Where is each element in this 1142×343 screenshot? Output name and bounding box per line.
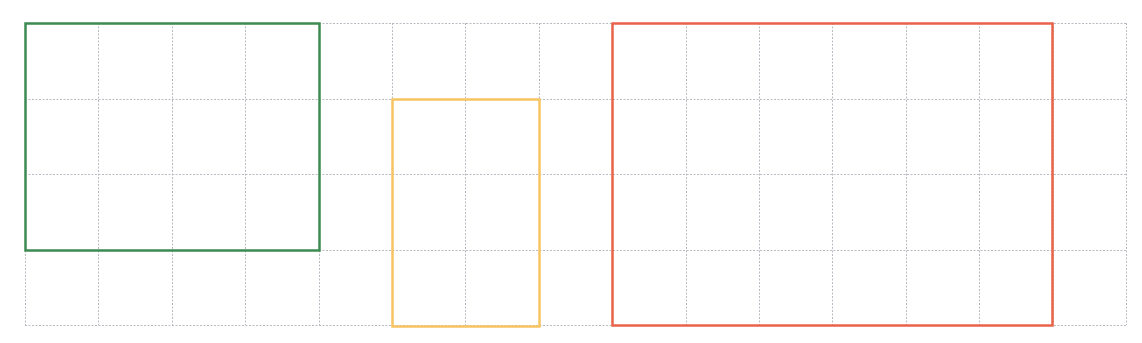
grid-lines: [25, 23, 1127, 326]
grid-diagram: [0, 0, 1142, 343]
